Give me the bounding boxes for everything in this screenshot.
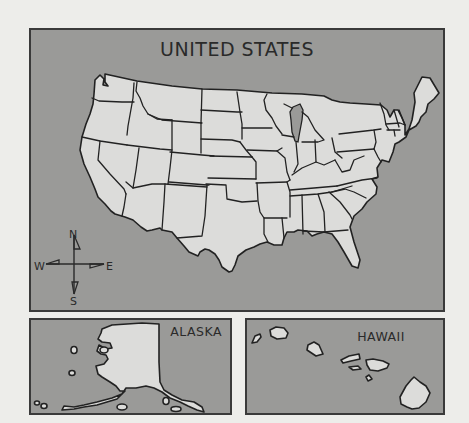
alaska-map (31, 320, 234, 417)
nunivak-island (100, 347, 108, 353)
southeast-island-2 (163, 398, 169, 405)
compass-west-label: W (34, 260, 45, 273)
alaska-inset-panel: ALASKA (29, 318, 232, 415)
alaska-landmass (62, 323, 204, 412)
compass-east-label: E (106, 260, 113, 273)
compass-north-label: N (69, 228, 77, 241)
molokai-island (341, 354, 360, 363)
maui-island (366, 359, 389, 371)
lanai-island (349, 366, 361, 370)
us-landmass (80, 74, 439, 272)
east-arrow-icon (90, 264, 104, 268)
compass-rose: N E W S (34, 228, 113, 308)
main-map-panel: UNITED STATES (29, 28, 445, 312)
kodiak-island (117, 404, 127, 410)
oahu-island (307, 342, 323, 356)
west-arrow-icon (46, 260, 59, 264)
aleutian-island-2 (41, 404, 47, 409)
compass-south-label: S (70, 295, 77, 308)
southeast-island (171, 407, 181, 412)
st-lawrence-island (69, 371, 75, 376)
hawaii-map (247, 320, 447, 417)
big-island (400, 377, 430, 409)
small-island (71, 347, 77, 354)
kauai-island (270, 327, 288, 339)
kahoolawe-island (366, 375, 372, 381)
aleutian-island-1 (35, 401, 40, 405)
contiguous-us-map: N E W S (31, 30, 447, 314)
south-arrow-icon (72, 282, 78, 294)
hawaii-inset-panel: HAWAII (245, 318, 445, 415)
niihau-island (252, 334, 261, 343)
